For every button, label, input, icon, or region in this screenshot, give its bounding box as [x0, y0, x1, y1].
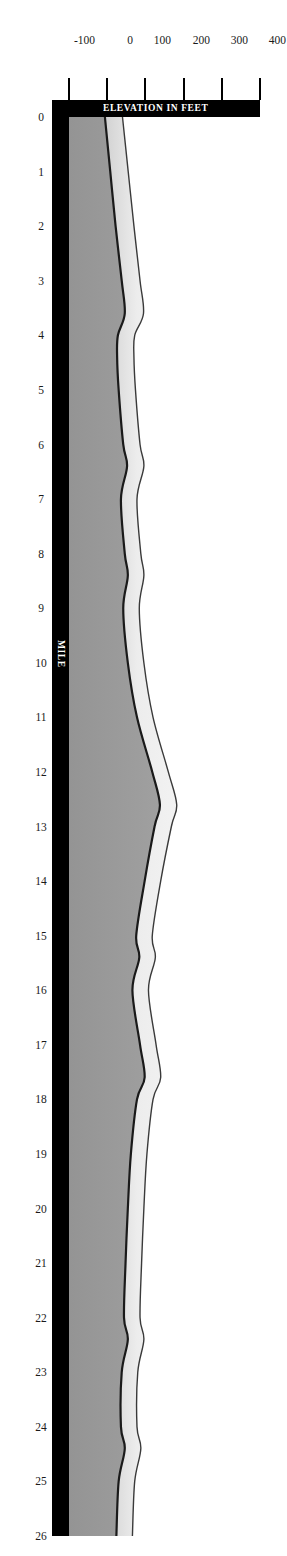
- x-tick-label-mile-24: 24: [26, 1421, 56, 1433]
- below-line-fill: [69, 117, 160, 1536]
- rotated-chart-stage: MILE ELEVATION IN FEET 01234567891011121…: [0, 0, 285, 1556]
- x-tick-label-mile-2: 2: [26, 220, 56, 232]
- x-tick-label-mile-11: 11: [26, 711, 56, 723]
- x-tick-label-mile-0: 0: [26, 111, 56, 123]
- x-tick-label-mile-7: 7: [26, 493, 56, 505]
- x-tick-label-mile-1: 1: [26, 166, 56, 178]
- x-tick-label-mile-23: 23: [26, 1366, 56, 1378]
- x-tick-label-mile-13: 13: [26, 821, 56, 833]
- y-tick-mark-200: [183, 78, 185, 100]
- x-tick-label-mile-5: 5: [26, 384, 56, 396]
- y-tick-label--100: -100: [43, 32, 95, 48]
- y-tick-mark--100: [68, 78, 70, 100]
- x-tick-label-mile-26: 26: [26, 1530, 56, 1542]
- elevation-profile-figure: MILE ELEVATION IN FEET 01234567891011121…: [0, 0, 285, 1556]
- y-tick-mark-0: [106, 78, 108, 100]
- y-tick-mark-400: [259, 78, 261, 100]
- x-tick-label-mile-14: 14: [26, 875, 56, 887]
- x-tick-label-mile-9: 9: [26, 602, 56, 614]
- x-tick-label-mile-3: 3: [26, 275, 56, 287]
- x-tick-label-mile-19: 19: [26, 1148, 56, 1160]
- x-tick-label-mile-25: 25: [26, 1475, 56, 1487]
- x-tick-label-mile-18: 18: [26, 1093, 56, 1105]
- x-tick-label-mile-8: 8: [26, 548, 56, 560]
- x-tick-label-mile-21: 21: [26, 1257, 56, 1269]
- x-tick-label-mile-4: 4: [26, 329, 56, 341]
- x-tick-label-mile-17: 17: [26, 1039, 56, 1051]
- y-axis-title: ELEVATION IN FEET: [52, 100, 260, 117]
- x-tick-label-mile-6: 6: [26, 439, 56, 451]
- y-tick-mark-100: [144, 78, 146, 100]
- x-tick-label-mile-15: 15: [26, 930, 56, 942]
- x-tick-label-mile-10: 10: [26, 657, 56, 669]
- x-tick-label-mile-22: 22: [26, 1312, 56, 1324]
- x-tick-label-mile-16: 16: [26, 984, 56, 996]
- y-tick-mark-300: [221, 78, 223, 100]
- x-tick-label-mile-20: 20: [26, 1203, 56, 1215]
- x-tick-label-mile-12: 12: [26, 766, 56, 778]
